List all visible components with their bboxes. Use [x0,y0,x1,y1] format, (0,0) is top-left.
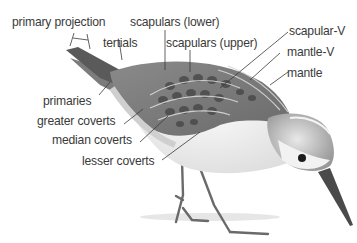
bird-topography-diagram: primary projection tertials scapulars (l… [0,0,357,243]
label-mantle-v: mantle-V [287,45,334,59]
label-scapulars-upper: scapulars (upper) [166,36,257,50]
label-scapulars-lower: scapulars (lower) [130,15,219,29]
label-primary-projection: primary projection [12,15,105,29]
label-lesser-coverts: lesser coverts [82,154,154,168]
label-median-coverts: median coverts [52,133,132,147]
label-scapular-v: scapular-V [289,24,345,38]
label-mantle: mantle [287,66,322,80]
label-greater-coverts: greater coverts [37,114,115,128]
label-tertials: tertials [103,36,137,50]
label-primaries: primaries [43,94,91,108]
